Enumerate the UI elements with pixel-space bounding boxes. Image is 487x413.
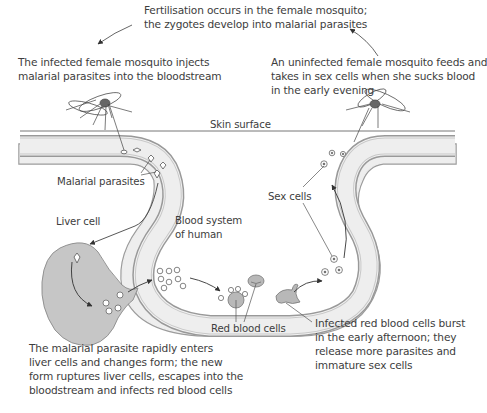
label-fertilisation: Fertilisation occurs in the female mosqu… bbox=[144, 3, 367, 31]
label-burst: Infected red blood cells burst in the ea… bbox=[315, 316, 465, 372]
arrow-to-fertilisation bbox=[350, 29, 378, 56]
label-uninfected-line3: in the early evening bbox=[271, 83, 487, 97]
label-injects-line1: The infected female mosquito injects bbox=[18, 55, 221, 69]
arrow-to-red-cells bbox=[190, 278, 220, 291]
label-burst-line4: immature sex cells bbox=[315, 358, 465, 372]
label-liver-cell: Liver cell bbox=[56, 215, 100, 229]
label-burst-line2: in the early afternoon; they bbox=[315, 330, 465, 344]
label-liver-stage: The malarial parasite rapidly enters liv… bbox=[29, 341, 243, 397]
label-blood-system-line1: Blood system bbox=[175, 214, 242, 228]
bursting-red-cell bbox=[276, 284, 300, 303]
label-burst-line1: Infected red blood cells burst bbox=[315, 316, 465, 330]
sex-cells-pointer-1 bbox=[303, 166, 324, 187]
label-skin-surface: Skin surface bbox=[210, 118, 271, 132]
sex-cells-pointer-2 bbox=[303, 203, 332, 256]
label-uninfected-line1: An uninfected female mosquito feeds and bbox=[271, 55, 487, 69]
blood-merozoites bbox=[157, 267, 186, 291]
label-burst-line3: release more parasites and bbox=[315, 344, 465, 358]
label-blood-system: Blood system of human bbox=[175, 214, 242, 242]
label-injects-line2: malarial parasites into the bloodstream bbox=[18, 69, 221, 83]
red-blood-cells bbox=[218, 275, 264, 308]
label-liver-stage-line1: The malarial parasite rapidly enters bbox=[29, 341, 243, 355]
label-fertilisation-line2: the zygotes develop into malarial parasi… bbox=[144, 17, 367, 31]
label-injects: The infected female mosquito injects mal… bbox=[18, 55, 221, 83]
label-fertilisation-line1: Fertilisation occurs in the female mosqu… bbox=[144, 3, 367, 17]
label-liver-stage-line3: form ruptures liver cells, escapes into … bbox=[29, 369, 243, 383]
label-liver-stage-line4: bloodstream and infects red blood cells bbox=[29, 383, 243, 397]
label-liver-stage-line2: liver cells and changes form; the new bbox=[29, 355, 243, 369]
label-malarial-parasites: Malarial parasites bbox=[57, 175, 145, 189]
arrow-to-injection bbox=[98, 25, 132, 44]
label-blood-system-line2: of human bbox=[175, 228, 242, 242]
label-uninfected: An uninfected female mosquito feeds and … bbox=[271, 55, 487, 97]
label-sex-cells: Sex cells bbox=[268, 190, 311, 204]
label-uninfected-line2: takes in sex cells when she sucks blood bbox=[271, 69, 487, 83]
arrow-burst-to-sex-cells bbox=[294, 281, 322, 292]
label-red-blood-cells: Red blood cells bbox=[211, 322, 286, 336]
